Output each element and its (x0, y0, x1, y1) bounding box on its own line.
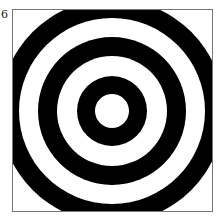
panel-label: 6 (1, 9, 8, 21)
ring-5 (95, 94, 129, 128)
target-pattern-frame (12, 9, 213, 212)
concentric-rings-image (13, 10, 213, 212)
